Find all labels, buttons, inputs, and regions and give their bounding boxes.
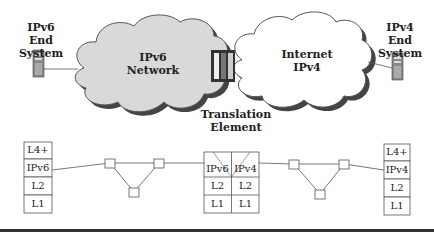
label-line: IPv6 [118,51,188,64]
label-line: IPv4 [366,21,434,34]
ipv4-router-mesh [259,160,384,199]
middle-stack-l1-left: L1 [204,198,231,209]
middle-stack-l1-right: L1 [232,198,259,209]
right-stack-l4: L4+ [384,146,410,157]
middle-stack-ipv4: IPv4 [232,163,259,174]
internet-ipv4-label: Internet IPv4 [272,48,342,74]
label-line: Internet [272,48,342,61]
right-stack-ip: IPv4 [384,164,410,175]
ipv6-router-mesh [52,159,204,197]
right-stack-l2: L2 [384,182,410,193]
left-stack-ip: IPv6 [24,162,52,173]
ipv6-network-label: IPv6 Network [118,51,188,77]
ipv6-end-system-label: IPv6 End System [6,21,76,60]
right-stack-l1: L1 [384,200,410,211]
left-stack-l4: L4+ [24,144,52,155]
label-line: Translation [196,108,276,121]
label-line: IPv4 [272,61,342,74]
label-line: IPv6 [6,21,76,34]
left-stack-l1: L1 [24,198,52,209]
middle-stack-l2-left: L2 [204,180,231,191]
translation-device-icon [211,50,235,82]
label-line: End System [6,34,76,60]
middle-stack-l2-right: L2 [232,180,259,191]
ipv4-end-system-label: IPv4 End System [366,21,434,60]
left-stack-l2: L2 [24,180,52,191]
bottom-rule [0,229,434,232]
label-line: End System [366,34,434,60]
translation-element-label: Translation Element [196,108,276,134]
label-line: Element [196,121,276,134]
label-line: Network [118,64,188,77]
middle-stack-ipv6: IPv6 [204,163,231,174]
